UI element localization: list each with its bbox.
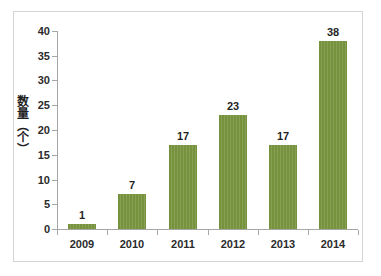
x-tick-label-2009: 2009 (57, 238, 107, 250)
x-tick-label-2010: 2010 (107, 238, 157, 250)
y-tick-label: 0 (26, 224, 50, 235)
x-tick-mark (157, 230, 158, 235)
y-tick-mark (52, 130, 57, 131)
x-tick-label-2012: 2012 (208, 238, 258, 250)
y-tick-label: 10 (26, 175, 50, 186)
x-tick-mark (308, 230, 309, 235)
bar-chart-figure: 数量（个） 40 35 30 25 20 15 10 5 0 1 7 17 23… (0, 0, 381, 276)
x-tick-mark (57, 230, 58, 235)
value-axis-tick-labels: 40 35 30 25 20 15 10 5 0 (24, 0, 50, 276)
bar-2009[interactable] (68, 224, 96, 229)
y-tick-label: 15 (26, 150, 50, 161)
x-tick-label-2013: 2013 (258, 238, 308, 250)
y-tick-label: 5 (26, 199, 50, 210)
plot-area (57, 25, 358, 229)
x-tick-label-2014: 2014 (308, 238, 358, 250)
bar-2013[interactable] (269, 145, 297, 229)
y-tick-label: 35 (26, 51, 50, 62)
x-tick-label-2011: 2011 (158, 238, 208, 250)
y-tick-mark (52, 80, 57, 81)
x-tick-mark (258, 230, 259, 235)
x-tick-mark (208, 230, 209, 235)
y-tick-label: 25 (26, 100, 50, 111)
bar-value-label-2009: 1 (57, 209, 107, 221)
bar-value-label-2011: 17 (158, 130, 208, 142)
y-tick-label: 20 (26, 125, 50, 136)
y-tick-mark (52, 31, 57, 32)
y-tick-mark (52, 105, 57, 106)
bar-value-label-2014: 38 (308, 26, 358, 38)
y-tick-mark (52, 204, 57, 205)
y-tick-label: 30 (26, 75, 50, 86)
value-axis-line (57, 31, 58, 230)
y-tick-mark (52, 56, 57, 57)
bar-value-label-2013: 17 (258, 130, 308, 142)
bar-value-label-2012: 23 (208, 100, 258, 112)
bar-2010[interactable] (118, 194, 146, 229)
bar-2014[interactable] (319, 41, 347, 229)
y-tick-label: 40 (26, 26, 50, 37)
x-tick-mark (358, 230, 359, 235)
bar-2012[interactable] (219, 115, 247, 229)
y-tick-mark (52, 155, 57, 156)
bar-2011[interactable] (169, 145, 197, 229)
y-tick-mark (52, 180, 57, 181)
bar-value-label-2010: 7 (107, 179, 157, 191)
x-tick-mark (107, 230, 108, 235)
